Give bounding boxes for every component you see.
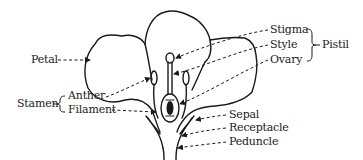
label-peduncle: Peduncle — [229, 136, 278, 148]
peduncle-stem — [163, 148, 164, 160]
sepal-leader — [196, 115, 226, 120]
style — [168, 62, 172, 94]
flower-diagram: Petal Stigma Style Ovary Pistil Stamen A… — [0, 0, 363, 160]
style-leader — [174, 45, 268, 74]
label-anther: Anther — [68, 90, 105, 102]
anther-leader — [106, 78, 150, 97]
left-petal — [85, 35, 160, 132]
peduncle-leader — [178, 142, 226, 148]
left-filament — [154, 84, 158, 118]
stigma — [166, 53, 174, 63]
label-ovary: Ovary — [270, 54, 302, 66]
label-filament: Filament — [68, 104, 116, 116]
label-stamen: Stamen — [17, 98, 58, 110]
filament-leader — [112, 110, 156, 112]
right-filament — [182, 84, 186, 118]
label-sepal: Sepal — [229, 109, 259, 121]
receptacle-leader — [182, 128, 226, 136]
label-receptacle: Receptacle — [229, 122, 289, 134]
right-anther — [183, 71, 189, 85]
pistil-brace — [307, 29, 316, 61]
flower-illustration — [0, 0, 363, 160]
right-sepal — [180, 116, 194, 134]
label-style: Style — [270, 39, 297, 51]
label-stigma: Stigma — [270, 24, 308, 36]
stigma-leader — [176, 30, 268, 58]
label-pistil: Pistil — [322, 39, 349, 51]
label-petal: Petal — [31, 54, 58, 66]
center-petal — [145, 11, 211, 62]
